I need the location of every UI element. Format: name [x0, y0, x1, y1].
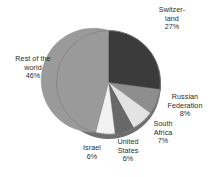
pie-label-israel: Israel 6% — [74, 144, 110, 161]
pie-chart: Switzer- land 27% Russian Federation 8% … — [0, 0, 216, 177]
pie-label-rest-of-world: Rest of the world 46% — [2, 55, 64, 81]
pie-label-russian-federation: Russian Federation 8% — [155, 93, 215, 119]
pie-slices — [41, 28, 160, 134]
pie-label-united-states: United States 6% — [108, 138, 148, 164]
pie-label-switzerland: Switzer- land 27% — [142, 6, 202, 32]
pie-slice-switzerland — [109, 30, 161, 89]
